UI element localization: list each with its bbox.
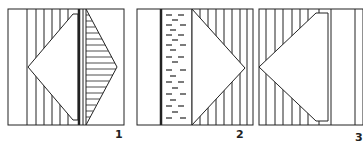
figure-2 — [137, 9, 253, 125]
figure-2-label: 2 — [236, 128, 244, 141]
figure-1-label: 1 — [115, 128, 123, 141]
figure-3-label: 3 — [355, 131, 363, 144]
diagram-canvas — [0, 0, 363, 145]
figure-1 — [8, 9, 124, 125]
figure-3 — [259, 9, 363, 125]
